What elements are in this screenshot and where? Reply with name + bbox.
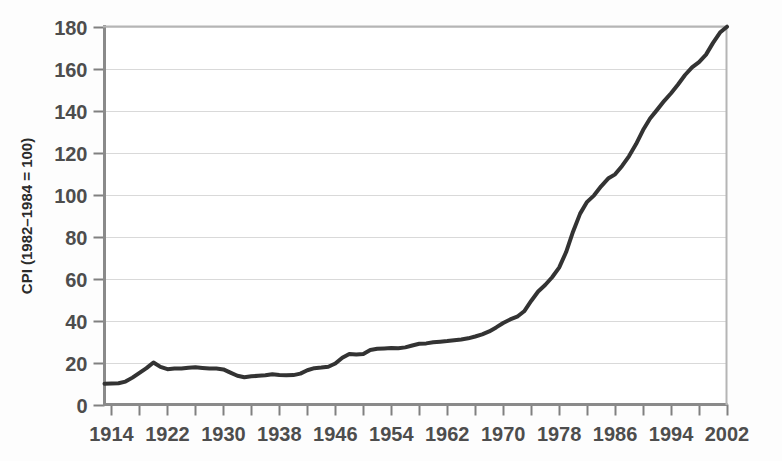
x-tick-label: 1938 xyxy=(257,423,302,445)
x-tick-label: 1954 xyxy=(369,423,414,445)
x-tick-label: 1930 xyxy=(201,423,246,445)
x-tick-label: 1914 xyxy=(89,423,134,445)
y-tick-label: 140 xyxy=(54,101,87,123)
y-tick-label: 0 xyxy=(76,395,87,417)
y-axis-title: CPI (1982–1984 = 100) xyxy=(18,138,35,294)
y-tick-label: 160 xyxy=(54,59,87,81)
y-tick-label: 180 xyxy=(54,17,87,39)
plot-area-background xyxy=(103,26,727,405)
y-tick-label: 40 xyxy=(65,311,87,333)
y-tick-label: 120 xyxy=(54,143,87,165)
cpi-line-chart-figure: 020406080100120140160180 191419221930193… xyxy=(0,0,782,461)
x-tick-label: 1994 xyxy=(649,423,694,445)
x-tick-label: 2002 xyxy=(705,423,750,445)
y-tick-label: 60 xyxy=(65,269,87,291)
x-tick-label: 1970 xyxy=(481,423,526,445)
x-tick-label: 1922 xyxy=(145,423,190,445)
y-tick-label: 20 xyxy=(65,353,87,375)
y-tick-label: 80 xyxy=(65,227,87,249)
x-tick-label: 1978 xyxy=(537,423,582,445)
y-tick-label: 100 xyxy=(54,185,87,207)
x-tick-label: 1962 xyxy=(425,423,470,445)
x-tick-label: 1946 xyxy=(313,423,358,445)
chart-canvas: 020406080100120140160180 191419221930193… xyxy=(0,0,782,461)
x-tick-label: 1986 xyxy=(593,423,638,445)
